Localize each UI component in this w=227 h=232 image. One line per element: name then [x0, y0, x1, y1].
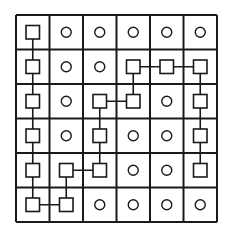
square-node [194, 164, 208, 178]
square-node [194, 60, 208, 74]
square-node [194, 129, 208, 143]
circle-node [162, 200, 172, 210]
circle-node [128, 165, 138, 175]
square-node [127, 60, 141, 74]
square-node [93, 95, 107, 109]
square-node [60, 164, 74, 178]
circle-node [195, 27, 205, 37]
square-node [26, 95, 40, 109]
circle-node [95, 200, 105, 210]
circle-node [128, 131, 138, 141]
circle-node [61, 62, 71, 72]
square-node [26, 26, 40, 40]
square-node [160, 60, 174, 74]
circle-node [61, 27, 71, 37]
square-node [93, 129, 107, 143]
grid-diagram [0, 0, 227, 232]
square-node [26, 164, 40, 178]
square-node [60, 198, 74, 212]
square-node [26, 129, 40, 143]
circle-node [61, 96, 71, 106]
square-node [26, 60, 40, 74]
circle-node [128, 200, 138, 210]
square-node [127, 95, 141, 109]
grid-lines [16, 15, 217, 222]
circle-node [95, 62, 105, 72]
circle-node [61, 131, 71, 141]
circle-node [162, 165, 172, 175]
circle-node [128, 27, 138, 37]
square-node [26, 198, 40, 212]
circle-node [162, 96, 172, 106]
square-node [194, 95, 208, 109]
circle-node [162, 27, 172, 37]
circle-node [162, 131, 172, 141]
circle-node [95, 27, 105, 37]
square-node [93, 164, 107, 178]
circle-node [195, 200, 205, 210]
